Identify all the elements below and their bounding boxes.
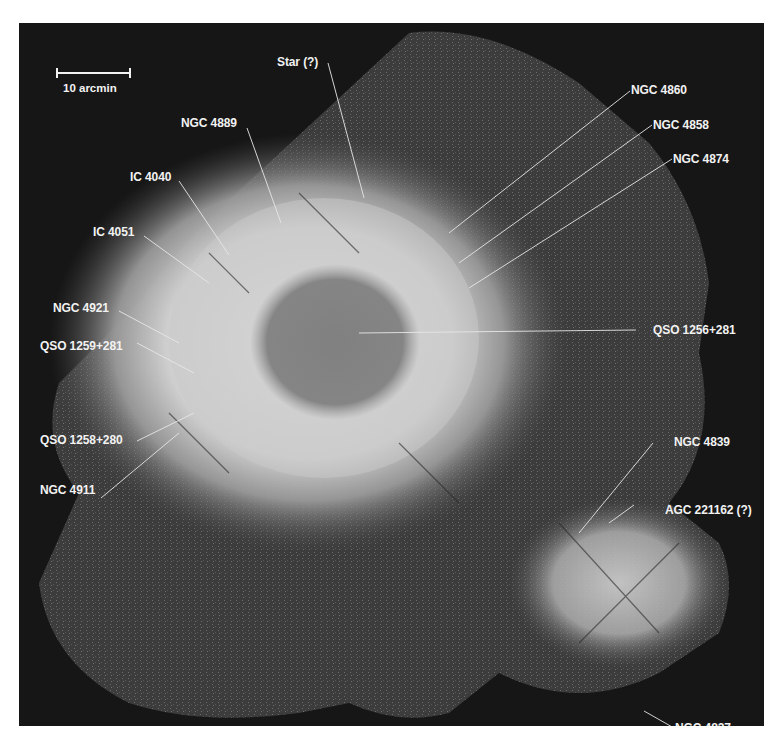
- scale-bar: [57, 68, 130, 78]
- label-ngc4911: NGC 4911: [40, 483, 95, 497]
- label-qso1259: QSO 1259+281: [40, 339, 123, 353]
- label-ngc4874: NGC 4874: [673, 152, 729, 166]
- cluster-xray-image: 10 arcmin Star (?) NGC 4889 IC 4040 IC 4…: [19, 23, 764, 726]
- label-ngc4827: NGC 4827: [675, 721, 731, 726]
- label-agc221162: AGC 221162 (?): [665, 503, 752, 517]
- label-star: Star (?): [277, 55, 318, 69]
- label-qso1258: QSO 1258+280: [40, 433, 123, 447]
- label-ic4051: IC 4051: [93, 225, 134, 239]
- label-ngc4839: NGC 4839: [674, 435, 730, 449]
- label-qso1256: QSO 1256+281: [653, 323, 736, 337]
- label-ngc4858: NGC 4858: [653, 118, 709, 132]
- label-ngc4889: NGC 4889: [181, 116, 237, 130]
- label-ngc4921: NGC 4921: [53, 301, 109, 315]
- scale-bar-label: 10 arcmin: [63, 82, 117, 94]
- label-ngc4860: NGC 4860: [631, 83, 687, 97]
- label-ic4040: IC 4040: [130, 170, 171, 184]
